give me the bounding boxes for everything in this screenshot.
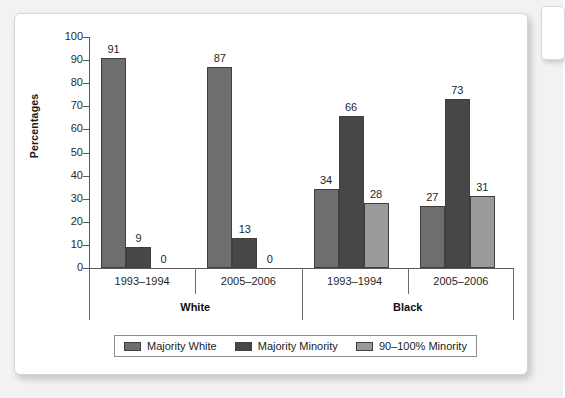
chart-card: Percentages 1009080706050403020100 91908…	[14, 13, 528, 375]
category-label: 1993–1994	[302, 275, 408, 287]
legend-swatch-icon	[356, 342, 373, 351]
y-axis-tick-label: 30	[49, 193, 83, 204]
y-axis-tick-label: 0	[49, 262, 83, 273]
y-axis-tick-text: 40	[57, 170, 83, 181]
bar-value-label: 13	[226, 224, 263, 235]
y-axis-tick-label: 20	[49, 216, 83, 227]
legend-item: Majority Minority	[235, 340, 338, 352]
bar-value-label: 0	[145, 254, 182, 265]
y-axis-tick-label: 100	[49, 31, 83, 42]
right-side-panel	[541, 6, 565, 60]
group-label: Black	[302, 301, 515, 313]
bar	[364, 203, 389, 268]
plot-area: Percentages 1009080706050403020100 91908…	[15, 14, 527, 374]
y-axis-tick-label: 60	[49, 123, 83, 134]
y-axis-tick-label: 80	[49, 77, 83, 88]
legend-swatch-icon	[235, 342, 252, 351]
bar-value-label: 91	[95, 44, 132, 55]
y-axis-tick-label: 90	[49, 54, 83, 65]
y-axis-tick-text: 100	[57, 31, 83, 42]
y-axis-tick-text: 50	[57, 147, 83, 158]
category-label: 1993–1994	[89, 275, 195, 287]
y-axis-tick-text: 30	[57, 193, 83, 204]
legend-label: 90–100% Minority	[379, 340, 467, 352]
legend-swatch-icon	[124, 342, 141, 351]
y-axis-tick-label: 50	[49, 147, 83, 158]
legend-item: 90–100% Minority	[356, 340, 467, 352]
y-axis-tick-text: 0	[57, 262, 83, 273]
y-axis-tick-label: 70	[49, 100, 83, 111]
bar	[420, 206, 445, 268]
chart-legend: Majority WhiteMajority Minority90–100% M…	[114, 335, 477, 357]
y-axis-tick-text: 20	[57, 216, 83, 227]
category-label: 2005–2006	[195, 275, 301, 287]
y-axis-tick-text: 90	[57, 54, 83, 65]
y-axis-tick-text: 60	[57, 123, 83, 134]
bar	[207, 67, 232, 268]
bar-value-label: 87	[201, 53, 238, 64]
bar-value-label: 9	[120, 233, 157, 244]
group-label: White	[89, 301, 302, 313]
category-axis: 1993–19942005–20061993–19942005–2006Whit…	[89, 268, 514, 328]
legend-label: Majority White	[147, 340, 217, 352]
y-axis-tick-label: 10	[49, 239, 83, 250]
bar-value-label: 31	[464, 182, 501, 193]
bars-layer: 919087130346628277331	[89, 37, 514, 268]
legend-label: Majority Minority	[258, 340, 338, 352]
y-axis-title: Percentages	[28, 71, 40, 181]
bar-value-label: 28	[358, 189, 395, 200]
category-label: 2005–2006	[408, 275, 514, 287]
bar	[314, 189, 339, 268]
y-axis-tick-label: 40	[49, 170, 83, 181]
y-axis-tick-text: 10	[57, 239, 83, 250]
bar	[470, 196, 495, 268]
bar-value-label: 0	[251, 254, 288, 265]
y-axis-tick-text: 80	[57, 77, 83, 88]
y-axis-tick-text: 70	[57, 100, 83, 111]
bar-value-label: 66	[333, 102, 370, 113]
legend-item: Majority White	[124, 340, 217, 352]
bar-value-label: 73	[439, 85, 476, 96]
